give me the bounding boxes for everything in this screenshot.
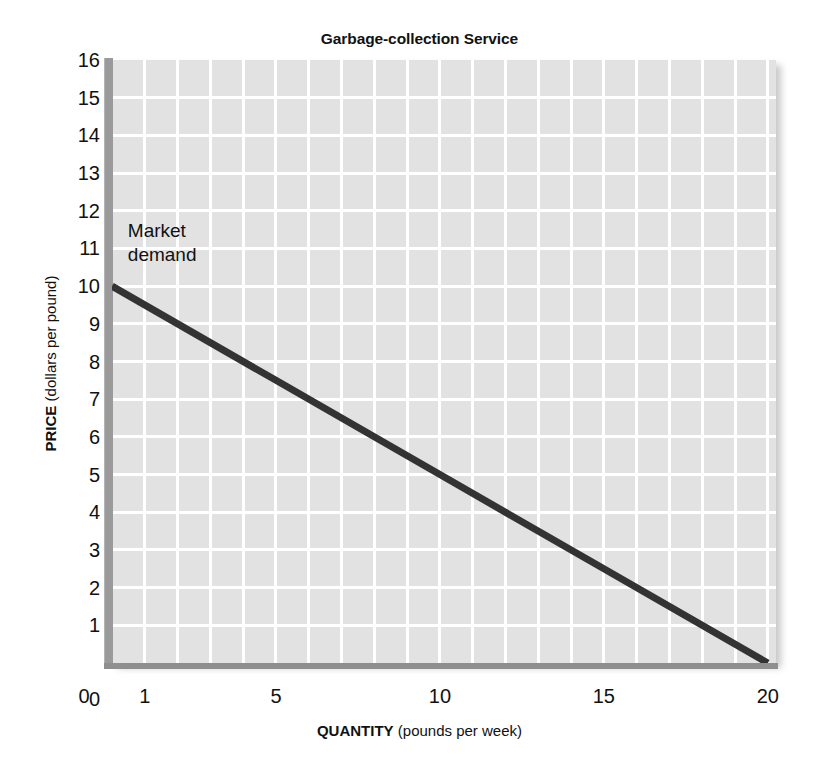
data-series-layer (112, 60, 776, 663)
y-axis-tick-label: 15 (58, 88, 100, 108)
y-axis-tick-label: 10 (58, 276, 100, 296)
y-axis-title: PRICE (dollars per pound) (42, 174, 59, 554)
x-axis-title-bold: QUANTITY (317, 722, 394, 739)
y-axis-tick-label: 14 (58, 125, 100, 145)
x-axis-title: QUANTITY (pounds per week) (0, 722, 839, 739)
x-axis-tick-labels: 015101520 (0, 686, 839, 712)
x-axis-tick-label: 5 (246, 686, 306, 706)
y-axis-tick-label: 16 (58, 50, 100, 70)
demand-curve-line (112, 286, 768, 663)
x-axis-spine (104, 663, 778, 669)
page-title: Garbage-collection Service (0, 30, 839, 48)
y-axis-tick-label: 12 (58, 201, 100, 221)
x-axis-tick-label: 10 (410, 686, 470, 706)
x-axis-tick-label: 20 (738, 686, 798, 706)
y-axis-tick-label: 7 (58, 389, 100, 409)
y-axis-title-bold: PRICE (42, 406, 59, 452)
y-axis-title-rest: (dollars per pound) (42, 276, 59, 406)
chart-figure: Garbage-collection Service Marketdemand … (0, 0, 839, 757)
x-axis-tick-label: 1 (115, 686, 175, 706)
y-axis-tick-label: 6 (58, 427, 100, 447)
y-axis-tick-label: 9 (58, 314, 100, 334)
market-demand-annotation: Marketdemand (128, 219, 197, 265)
y-axis-tick-label: 5 (58, 465, 100, 485)
x-axis-tick-label: 15 (574, 686, 634, 706)
y-axis-tick-labels: 161514131211109876543210 (52, 0, 100, 757)
market-demand-annotation-line: demand (128, 243, 197, 266)
market-demand-annotation-line: Market (128, 219, 197, 242)
y-axis-tick-label: 8 (58, 352, 100, 372)
y-axis-tick-label: 1 (58, 615, 100, 635)
x-axis-title-rest: (pounds per week) (394, 722, 522, 739)
y-axis-tick-label: 11 (58, 238, 100, 258)
y-axis-tick-label: 13 (58, 163, 100, 183)
x-axis-tick-label: 0 (54, 686, 114, 706)
y-axis-tick-label: 2 (58, 578, 100, 598)
y-axis-tick-label: 4 (58, 502, 100, 522)
demand-curve-svg (112, 60, 776, 663)
y-axis-tick-label: 3 (58, 540, 100, 560)
